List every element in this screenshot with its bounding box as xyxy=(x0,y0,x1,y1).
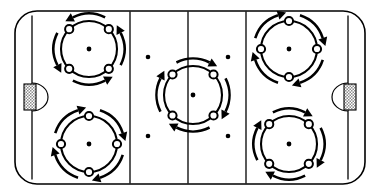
faceoff-circle-top-right-player-2 xyxy=(313,45,321,53)
faceoff-circle-bottom-right-player-2 xyxy=(305,160,313,168)
faceoff-circle-bottom-left-player-3 xyxy=(85,168,93,176)
faceoff-circle-center-player-3 xyxy=(168,111,176,119)
faceoff-circle-top-left-player-1 xyxy=(105,25,113,33)
faceoff-circle-bottom-left-player-4 xyxy=(57,140,65,148)
faceoff-circle-bottom-left-player-1 xyxy=(85,112,93,120)
faceoff-circle-top-left-player-4 xyxy=(65,25,73,33)
faceoff-circle-bottom-right-player-3 xyxy=(265,160,273,168)
faceoff-circle-bottom-right-center-dot xyxy=(287,142,292,147)
neutral-dot-top-right xyxy=(226,55,231,60)
neutral-dot-bottom-left xyxy=(146,134,151,139)
faceoff-circle-top-right-player-1 xyxy=(285,17,293,25)
faceoff-circle-top-left-center-dot xyxy=(87,47,92,52)
faceoff-circle-top-left-player-2 xyxy=(105,65,113,73)
goal-right xyxy=(344,84,356,110)
hockey-rink-diagram xyxy=(0,0,380,195)
faceoff-circle-center-player-1 xyxy=(209,70,217,78)
faceoff-circle-top-left-player-3 xyxy=(65,65,73,73)
faceoff-circle-bottom-left-player-2 xyxy=(113,140,121,148)
faceoff-circle-bottom-left-center-dot xyxy=(87,142,92,147)
faceoff-circle-center-center-dot xyxy=(191,93,196,98)
neutral-dot-bottom-right xyxy=(226,134,231,139)
faceoff-circle-top-right-player-4 xyxy=(257,45,265,53)
faceoff-circle-top-right-center-dot xyxy=(287,47,292,52)
faceoff-circle-top-right-player-3 xyxy=(285,73,293,81)
faceoff-circle-center-player-4 xyxy=(168,70,176,78)
faceoff-circle-bottom-right-player-1 xyxy=(305,120,313,128)
faceoff-circle-center-player-2 xyxy=(209,111,217,119)
neutral-dot-top-left xyxy=(146,55,151,60)
faceoff-circle-bottom-right-player-4 xyxy=(265,120,273,128)
goal-left xyxy=(24,84,36,110)
